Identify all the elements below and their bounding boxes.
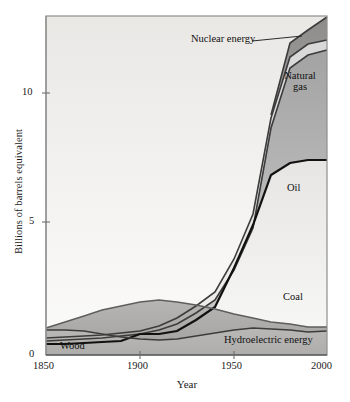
y-tick-label-0: 0: [29, 348, 34, 359]
series-label-natural-gas: Natural gas: [277, 70, 323, 92]
energy-sources-stacked-area-chart: Billions of barrels equivalent Year 10 5…: [0, 0, 350, 402]
series-label-hydroelectric-energy: Hydroelectric energy: [224, 334, 313, 345]
series-label-coal: Coal: [283, 291, 303, 302]
y-axis-title: Billions of barrels equivalent: [13, 112, 24, 272]
x-tick-label-1850: 1850: [33, 360, 54, 371]
series-label-natural-gas-line1: Natural: [284, 70, 316, 81]
x-tick-label-1900: 1900: [127, 360, 148, 371]
x-tick-label-2000: 2000: [311, 360, 332, 371]
y-tick-label-5: 5: [29, 215, 34, 226]
series-label-wood: Wood: [60, 340, 85, 351]
x-axis-title: Year: [46, 378, 328, 390]
y-tick-label-10: 10: [22, 86, 33, 97]
x-tick-label-1950: 1950: [221, 360, 242, 371]
series-label-nuclear-energy: Nuclear energy: [191, 33, 255, 44]
series-label-oil: Oil: [287, 182, 300, 193]
series-label-natural-gas-line2: gas: [293, 81, 307, 92]
